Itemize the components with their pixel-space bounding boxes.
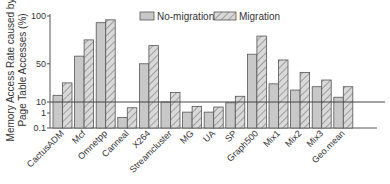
y-tick-label: 0.1: [33, 123, 46, 133]
bar-migration: [171, 92, 181, 128]
x-tick-label: SP: [223, 128, 239, 144]
x-tick-label: MG: [178, 128, 195, 145]
x-tick-label: Mix2: [283, 128, 304, 149]
y-tick-label: 50: [36, 59, 46, 69]
bar-migration: [343, 87, 353, 128]
bar-no-migration: [139, 64, 149, 128]
x-tick-label: Mix1: [261, 128, 282, 149]
bar-migration: [106, 20, 116, 128]
bar-migration: [257, 36, 267, 128]
x-tick-label: Mcf: [70, 128, 88, 146]
bar-migration: [192, 106, 202, 128]
legend: No-migrationMigration: [140, 11, 280, 22]
x-tick-label: CactusADM: [25, 128, 66, 169]
bar-migration: [214, 107, 224, 128]
bar-no-migration: [204, 112, 214, 128]
y-axis-label-line: Page Table Accesses (%): [17, 13, 28, 126]
bar-migration: [300, 72, 310, 128]
bar-no-migration: [247, 54, 257, 128]
bar-no-migration: [183, 112, 193, 128]
x-tick-label: UA: [201, 128, 217, 144]
y-tick-label: 10: [36, 97, 46, 107]
bar-no-migration: [96, 23, 106, 128]
bar-migration: [279, 60, 289, 128]
bar-no-migration: [291, 90, 301, 128]
bar-no-migration: [269, 84, 279, 128]
bar-migration: [235, 96, 245, 128]
bar-no-migration: [312, 87, 322, 128]
legend-swatch-no-migration: [140, 12, 154, 20]
bar-migration: [322, 80, 332, 128]
bar-migration: [127, 108, 137, 128]
bar-chart: Memory Access Rate caused byPage Table A…: [0, 0, 390, 184]
legend-label-migration: Migration: [239, 11, 280, 22]
bar-no-migration: [75, 56, 85, 128]
bar-no-migration: [161, 102, 171, 128]
y-tick-label: 100: [31, 11, 46, 21]
bar-no-migration: [226, 103, 236, 128]
legend-swatch-migration: [214, 12, 236, 20]
bar-no-migration: [53, 95, 63, 128]
bar-no-migration: [118, 118, 128, 128]
bar-migration: [63, 83, 73, 128]
bar-migration: [149, 46, 159, 128]
y-axis-label-line: Memory Access Rate caused by: [5, 0, 16, 141]
bar-migration: [84, 40, 94, 128]
x-axis-labels: CactusADMMcfOmnetppCannealX264Streamclus…: [25, 128, 347, 175]
legend-label-no-migration: No-migration: [157, 11, 214, 22]
y-axis-label: Memory Access Rate caused byPage Table A…: [5, 0, 28, 141]
y-tick-label: 1: [41, 108, 46, 118]
bars: [53, 20, 353, 128]
